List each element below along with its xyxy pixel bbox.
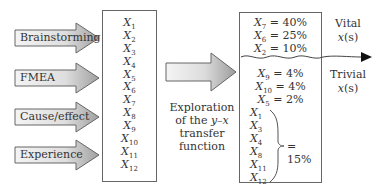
vital-trivial-divider xyxy=(239,50,373,66)
trivial-x5: X5 = 2% xyxy=(240,94,321,106)
group-x12: X12 xyxy=(250,172,267,185)
brace-icon xyxy=(268,109,288,183)
candidate-variables-list: X1 X2 X3 X4 X5 X6 X7 X8 X9 X10 X11 X12 xyxy=(103,17,156,172)
arrow-head-icon xyxy=(361,52,372,62)
source-arrow-cause-effect: Cause/effect xyxy=(14,101,100,133)
source-arrow-experience: Experience xyxy=(14,139,100,171)
source-label: Experience xyxy=(20,139,83,171)
exploration-arrow xyxy=(165,52,237,92)
arrow-right-icon xyxy=(165,52,237,92)
group-x11: X11 xyxy=(250,159,267,172)
source-label: FMEA xyxy=(20,62,55,94)
source-arrow-brainstorming: Brainstorming xyxy=(14,22,100,54)
vital-label: Vital x(s) xyxy=(326,17,370,45)
trivial-label: Trivial x(s) xyxy=(326,68,370,96)
variable-x10: X10 xyxy=(103,133,156,146)
source-label: Cause/effect xyxy=(20,101,89,133)
candidate-variables-box: X1 X2 X3 X4 X5 X6 X7 X8 X9 X10 X11 X12 xyxy=(102,10,157,182)
group-x3: X3 xyxy=(250,120,262,133)
exploration-label: Exploration of the y–x transfer function xyxy=(160,101,244,153)
group-x4: X4 xyxy=(250,133,262,146)
variable-x9: X9 xyxy=(103,120,156,133)
trivial-x9: X9 = 4% xyxy=(240,68,321,80)
vital-x6: X6 = 25% xyxy=(240,30,321,42)
vital-x7: X7 = 40% xyxy=(240,17,321,29)
group-x8: X8 xyxy=(250,146,262,159)
group-x1: X1 xyxy=(250,107,262,120)
variable-x12: X12 xyxy=(103,159,156,172)
trivial-x10: X10 = 4% xyxy=(240,81,321,93)
result-box: X7 = 40% X6 = 25% X2 = 10% X9 = 4% X10 =… xyxy=(239,12,322,183)
source-label: Brainstorming xyxy=(20,22,101,54)
group-total: = 15% xyxy=(287,140,321,166)
variable-x11: X11 xyxy=(103,146,156,159)
source-arrow-fmea: FMEA xyxy=(14,62,100,94)
